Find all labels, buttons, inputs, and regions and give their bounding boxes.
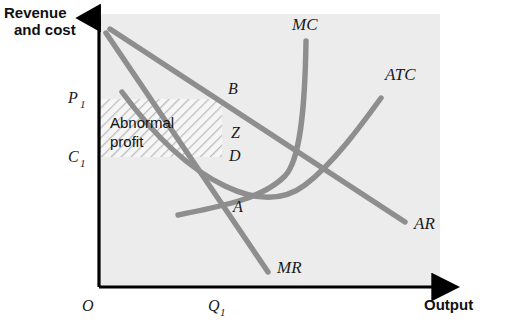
y-axis-title-line1: Revenue (4, 4, 67, 21)
point-label-z: Z (231, 124, 241, 141)
y-tick-c1-subscript: 1 (80, 157, 86, 169)
abnormal-profit-label-line2: profit (110, 133, 144, 150)
x-tick-q1-subscript: 1 (220, 306, 226, 318)
mc-curve-label: MC (291, 15, 318, 34)
y-axis-title-line2: and cost (14, 21, 76, 38)
point-label-d: D (228, 147, 241, 164)
ar-curve-label: AR (413, 214, 435, 233)
mr-curve-label: MR (276, 258, 302, 277)
economics-diagram: Revenue and cost Output P 1 C 1 Q 1 O Ab… (0, 0, 505, 332)
point-label-b: B (228, 80, 238, 97)
x-tick-q1-label: Q (208, 297, 220, 314)
y-tick-p1-subscript: 1 (80, 98, 86, 110)
point-label-a: A (232, 198, 243, 215)
x-axis-title: Output (424, 296, 473, 313)
origin-label: O (82, 297, 94, 314)
atc-curve-label: ATC (384, 65, 416, 84)
abnormal-profit-label-line1: Abnormal (110, 114, 174, 131)
y-tick-c1-label: C (68, 148, 79, 165)
y-tick-p1-label: P (67, 89, 78, 106)
